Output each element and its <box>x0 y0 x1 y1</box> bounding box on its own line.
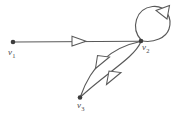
node-label-v1-subscript: 1 <box>12 52 16 59</box>
node-label-v3-subscript: 3 <box>81 105 85 112</box>
edge-v2-to-v3-upper-path <box>81 42 141 97</box>
node-label-v1: v1 <box>8 48 16 59</box>
edge-v2-to-v3-upper <box>81 42 141 97</box>
graph-canvas <box>0 0 175 117</box>
edge-v1-to-v2 <box>15 36 141 46</box>
graph-figure: v1 v2 v3 <box>0 0 175 117</box>
node-label-v3: v3 <box>77 101 85 112</box>
edge-v2-self-loop <box>136 6 170 42</box>
arrowhead-v1-to-v2 <box>72 36 86 46</box>
node-label-v2-subscript: 2 <box>146 47 150 54</box>
arrowhead-v2-self-loop <box>156 6 170 20</box>
arrowhead-v2-to-v3-upper <box>96 56 110 69</box>
node-v1 <box>11 40 16 45</box>
node-label-v2: v2 <box>142 43 150 54</box>
arrowhead-v2-to-v3-lower <box>107 71 122 85</box>
edge-v2-to-v3-lower <box>81 42 141 97</box>
edge-v2-to-v3-lower-path <box>81 42 141 97</box>
